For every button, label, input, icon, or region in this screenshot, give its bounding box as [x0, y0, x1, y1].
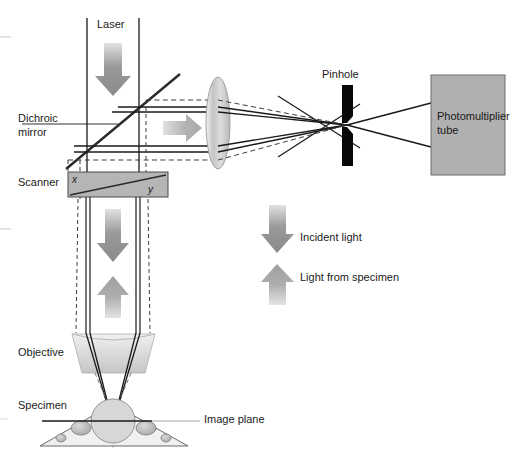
detector-rays [347, 103, 431, 147]
dichroic-mirror-label-line2: mirror [18, 126, 47, 139]
lower-return-arrow-icon [97, 276, 129, 318]
image-plane-label: Image plane [204, 413, 265, 426]
tube-lens [206, 77, 230, 169]
scanner-axis-y-label: y [148, 183, 153, 196]
diagram-canvas: Laser Dichroic mirror Scanner x y Pinhol… [0, 0, 525, 456]
legend-incident-light-label: Incident light [300, 231, 362, 244]
legend-light-from-specimen-label: Light from specimen [300, 271, 399, 284]
pmt-label-line1: Photomultiplier [437, 110, 510, 123]
beam-direction-arrow-icon [163, 114, 202, 142]
page-crop-marks [0, 37, 11, 419]
dichroic-mirror-label-line1: Dichroic [18, 112, 58, 125]
objective-lens [72, 334, 155, 373]
laser-direction-arrow-icon [95, 43, 131, 96]
dichroic-mirror [66, 74, 180, 169]
confocal-microscope-diagram [0, 0, 525, 456]
scanner-label: Scanner [18, 176, 59, 189]
legend-incident-arrow-icon [261, 205, 294, 253]
pmt-label-line2: tube [437, 124, 458, 137]
pinhole-label: Pinhole [322, 68, 359, 81]
specimen-label: Specimen [18, 399, 67, 412]
laser-label: Laser [97, 18, 125, 31]
scanner-box [68, 172, 168, 197]
objective-label: Objective [18, 346, 64, 359]
converging-beam-solid-rays [218, 107, 347, 152]
legend-specimen-arrow-icon [261, 264, 294, 305]
scanner-axis-x-label: x [72, 173, 77, 186]
lower-incident-arrow-icon [97, 209, 129, 262]
